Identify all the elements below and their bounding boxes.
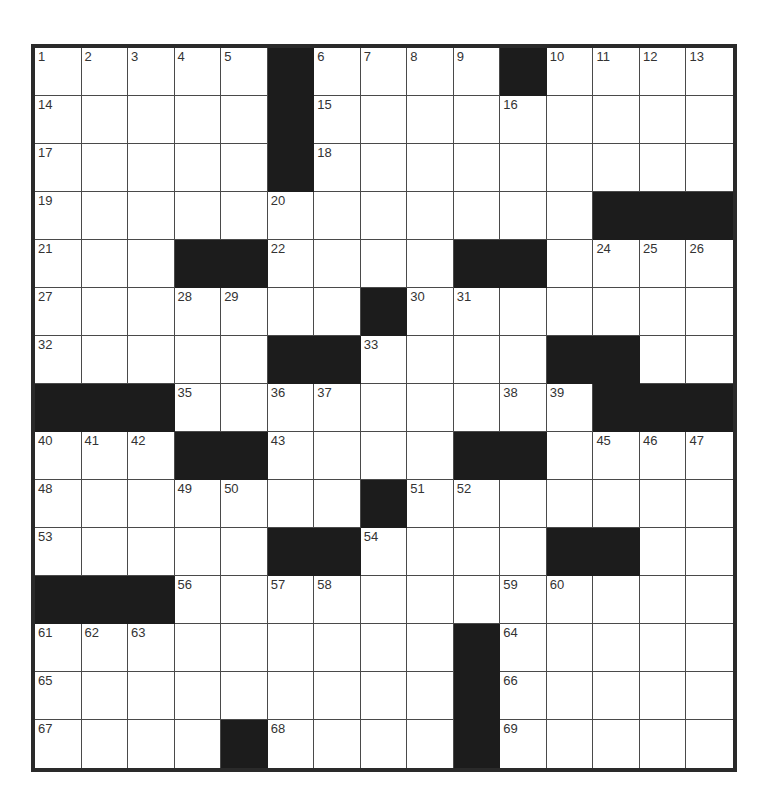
answer-cell[interactable]: 52 <box>454 480 501 528</box>
answer-cell[interactable] <box>547 432 594 480</box>
answer-cell[interactable] <box>500 528 547 576</box>
answer-cell[interactable] <box>221 624 268 672</box>
answer-cell[interactable]: 39 <box>547 384 594 432</box>
answer-cell[interactable]: 69 <box>500 720 547 768</box>
answer-cell[interactable]: 49 <box>175 480 222 528</box>
answer-cell[interactable] <box>686 528 733 576</box>
answer-cell[interactable]: 20 <box>268 192 315 240</box>
answer-cell[interactable]: 38 <box>500 384 547 432</box>
answer-cell[interactable] <box>640 96 687 144</box>
answer-cell[interactable] <box>221 336 268 384</box>
answer-cell[interactable] <box>175 336 222 384</box>
answer-cell[interactable] <box>640 288 687 336</box>
answer-cell[interactable]: 56 <box>175 576 222 624</box>
answer-cell[interactable] <box>640 480 687 528</box>
answer-cell[interactable] <box>454 192 501 240</box>
answer-cell[interactable]: 31 <box>454 288 501 336</box>
answer-cell[interactable] <box>686 624 733 672</box>
answer-cell[interactable] <box>175 672 222 720</box>
answer-cell[interactable] <box>454 576 501 624</box>
answer-cell[interactable]: 3 <box>128 48 175 96</box>
answer-cell[interactable] <box>593 576 640 624</box>
answer-cell[interactable] <box>128 480 175 528</box>
answer-cell[interactable] <box>221 672 268 720</box>
answer-cell[interactable] <box>175 528 222 576</box>
answer-cell[interactable] <box>407 336 454 384</box>
answer-cell[interactable]: 54 <box>361 528 408 576</box>
answer-cell[interactable] <box>593 672 640 720</box>
answer-cell[interactable] <box>407 672 454 720</box>
answer-cell[interactable]: 27 <box>35 288 82 336</box>
answer-cell[interactable] <box>686 336 733 384</box>
answer-cell[interactable]: 61 <box>35 624 82 672</box>
answer-cell[interactable] <box>175 192 222 240</box>
answer-cell[interactable] <box>314 288 361 336</box>
answer-cell[interactable] <box>128 720 175 768</box>
answer-cell[interactable] <box>547 96 594 144</box>
answer-cell[interactable] <box>82 96 129 144</box>
answer-cell[interactable] <box>221 96 268 144</box>
answer-cell[interactable] <box>82 192 129 240</box>
answer-cell[interactable] <box>221 528 268 576</box>
answer-cell[interactable]: 10 <box>547 48 594 96</box>
answer-cell[interactable]: 62 <box>82 624 129 672</box>
answer-cell[interactable] <box>407 576 454 624</box>
answer-cell[interactable] <box>314 432 361 480</box>
answer-cell[interactable] <box>361 384 408 432</box>
answer-cell[interactable] <box>407 240 454 288</box>
answer-cell[interactable]: 17 <box>35 144 82 192</box>
answer-cell[interactable] <box>686 672 733 720</box>
answer-cell[interactable]: 28 <box>175 288 222 336</box>
answer-cell[interactable]: 59 <box>500 576 547 624</box>
answer-cell[interactable] <box>593 480 640 528</box>
answer-cell[interactable]: 30 <box>407 288 454 336</box>
answer-cell[interactable] <box>593 144 640 192</box>
answer-cell[interactable]: 42 <box>128 432 175 480</box>
answer-cell[interactable] <box>361 240 408 288</box>
answer-cell[interactable] <box>547 288 594 336</box>
answer-cell[interactable] <box>640 144 687 192</box>
answer-cell[interactable] <box>454 96 501 144</box>
answer-cell[interactable] <box>640 528 687 576</box>
answer-cell[interactable]: 57 <box>268 576 315 624</box>
answer-cell[interactable]: 7 <box>361 48 408 96</box>
answer-cell[interactable]: 33 <box>361 336 408 384</box>
answer-cell[interactable] <box>500 288 547 336</box>
answer-cell[interactable] <box>454 144 501 192</box>
answer-cell[interactable]: 63 <box>128 624 175 672</box>
answer-cell[interactable] <box>640 576 687 624</box>
answer-cell[interactable] <box>640 336 687 384</box>
answer-cell[interactable]: 36 <box>268 384 315 432</box>
answer-cell[interactable]: 26 <box>686 240 733 288</box>
answer-cell[interactable] <box>454 384 501 432</box>
answer-cell[interactable]: 14 <box>35 96 82 144</box>
answer-cell[interactable] <box>640 672 687 720</box>
answer-cell[interactable] <box>128 144 175 192</box>
answer-cell[interactable] <box>221 576 268 624</box>
answer-cell[interactable]: 4 <box>175 48 222 96</box>
answer-cell[interactable]: 25 <box>640 240 687 288</box>
answer-cell[interactable]: 50 <box>221 480 268 528</box>
answer-cell[interactable] <box>82 336 129 384</box>
answer-cell[interactable] <box>175 144 222 192</box>
answer-cell[interactable]: 53 <box>35 528 82 576</box>
answer-cell[interactable] <box>175 96 222 144</box>
answer-cell[interactable] <box>407 144 454 192</box>
answer-cell[interactable] <box>407 720 454 768</box>
answer-cell[interactable]: 16 <box>500 96 547 144</box>
answer-cell[interactable] <box>593 96 640 144</box>
answer-cell[interactable] <box>314 240 361 288</box>
answer-cell[interactable] <box>686 96 733 144</box>
answer-cell[interactable]: 9 <box>454 48 501 96</box>
answer-cell[interactable]: 2 <box>82 48 129 96</box>
answer-cell[interactable] <box>82 528 129 576</box>
answer-cell[interactable] <box>547 480 594 528</box>
answer-cell[interactable] <box>268 288 315 336</box>
answer-cell[interactable]: 58 <box>314 576 361 624</box>
answer-cell[interactable] <box>128 336 175 384</box>
answer-cell[interactable]: 12 <box>640 48 687 96</box>
answer-cell[interactable]: 24 <box>593 240 640 288</box>
answer-cell[interactable] <box>361 144 408 192</box>
answer-cell[interactable]: 41 <box>82 432 129 480</box>
answer-cell[interactable]: 5 <box>221 48 268 96</box>
